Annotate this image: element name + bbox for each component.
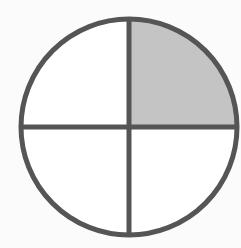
fraction-circle-diagram — [0, 0, 241, 248]
